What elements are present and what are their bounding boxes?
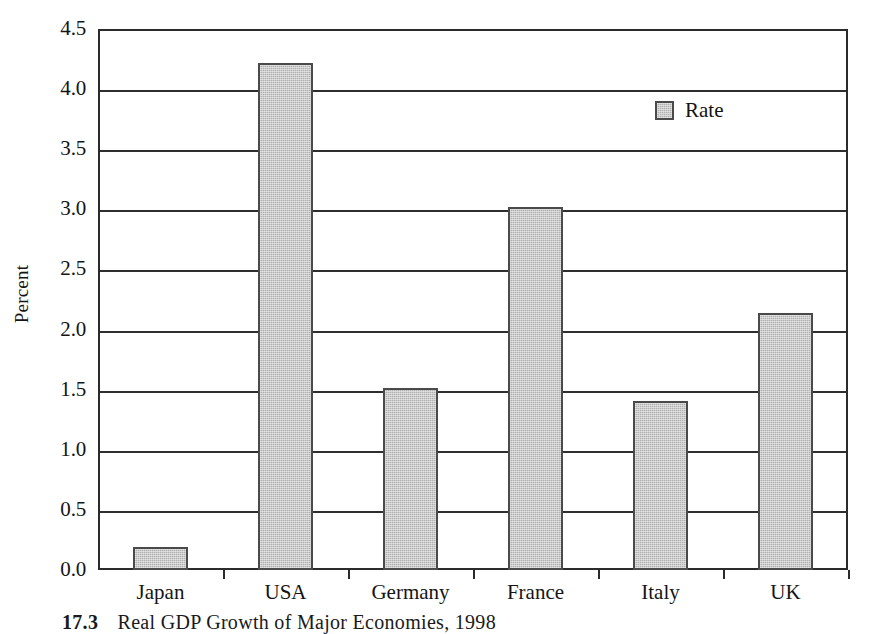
x-axis-category-label: UK bbox=[723, 580, 848, 605]
y-tick-label: 3.5 bbox=[16, 138, 86, 159]
legend-label: Rate bbox=[685, 100, 723, 121]
x-axis-tick bbox=[598, 570, 600, 579]
x-axis-category-label: USA bbox=[223, 580, 348, 605]
gridline bbox=[100, 210, 846, 212]
chart-legend: Rate bbox=[655, 100, 723, 121]
gridline bbox=[100, 391, 846, 393]
x-axis-tick bbox=[473, 570, 475, 579]
figure-number: 17.3 bbox=[62, 611, 98, 633]
y-tick-label: 4.0 bbox=[16, 78, 86, 99]
y-tick-label: 1.0 bbox=[16, 439, 86, 460]
gridline bbox=[100, 90, 846, 92]
y-tick-label: 3.0 bbox=[16, 198, 86, 219]
gridline bbox=[100, 150, 846, 152]
y-tick-label: 2.0 bbox=[16, 319, 86, 340]
y-tick-label: 1.5 bbox=[16, 379, 86, 400]
plot-area bbox=[98, 29, 848, 570]
gridline bbox=[100, 511, 846, 513]
gridline bbox=[100, 451, 846, 453]
y-tick-label: 0.0 bbox=[16, 559, 86, 580]
x-axis-category-label: France bbox=[473, 580, 598, 605]
x-axis-tick bbox=[723, 570, 725, 579]
gridline bbox=[100, 331, 846, 333]
figure-caption-text: Real GDP Growth of Major Economies, 1998 bbox=[118, 611, 496, 633]
x-axis-category-label: Germany bbox=[348, 580, 473, 605]
figure-caption: 17.3 Real GDP Growth of Major Economies,… bbox=[62, 611, 496, 634]
legend-swatch-icon bbox=[655, 101, 674, 120]
gridline bbox=[100, 270, 846, 272]
x-axis-tick bbox=[848, 570, 850, 579]
x-axis-category-label: Italy bbox=[598, 580, 723, 605]
y-tick-label: 4.5 bbox=[16, 18, 86, 39]
y-tick-label: 2.5 bbox=[16, 258, 86, 279]
x-axis-tick bbox=[223, 570, 225, 579]
x-axis-category-label: Japan bbox=[98, 580, 223, 605]
y-tick-label: 0.5 bbox=[16, 499, 86, 520]
x-axis-tick bbox=[348, 570, 350, 579]
